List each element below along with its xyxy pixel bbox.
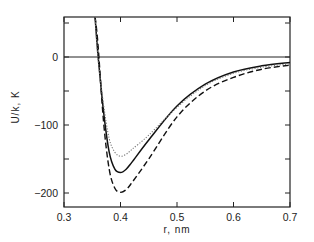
- curve-solid: [95, 17, 290, 173]
- y-axis-label: U/k, K: [10, 90, 21, 123]
- x-tick-label: 0.3: [57, 211, 72, 223]
- x-axis-label: r, nm: [163, 224, 190, 235]
- x-tick-label: 0.5: [170, 211, 185, 223]
- curves: [95, 17, 290, 192]
- y-tick-label: −100: [34, 119, 58, 131]
- y-tick-label: 0: [52, 51, 58, 63]
- y-tick-label: −200: [34, 187, 58, 199]
- x-tick-label: 0.4: [113, 211, 128, 223]
- curve-dotted: [95, 17, 290, 156]
- x-tick-label: 0.6: [226, 211, 241, 223]
- curve-dashed: [95, 17, 290, 192]
- potential-energy-chart: 0.30.40.50.60.70−100−200r, nmU/k, K: [0, 0, 314, 242]
- x-tick-label: 0.7: [283, 211, 298, 223]
